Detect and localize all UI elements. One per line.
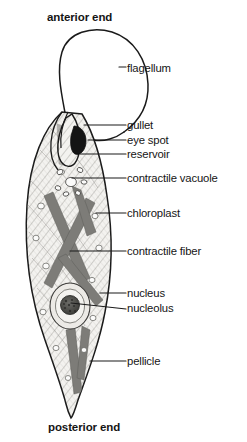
label-contractile-fiber: contractile fiber: [127, 245, 201, 257]
label-gullet: gullet: [127, 119, 153, 131]
label-nucleus: nucleus: [127, 287, 165, 299]
label-pellicle: pellicle: [127, 355, 160, 367]
anterior-end-label: anterior end: [47, 11, 112, 23]
label-flagellum: flagellum: [127, 62, 171, 74]
label-chloroplast: chloroplast: [127, 207, 180, 219]
label-contractile-vacuole: contractile vacuole: [127, 172, 218, 184]
euglena-diagram: [0, 0, 247, 442]
label-nucleolus: nucleolus: [127, 302, 173, 314]
label-reservoir: reservoir: [127, 148, 170, 160]
posterior-end-label: posterior end: [48, 421, 120, 433]
label-eye-spot: eye spot: [127, 134, 169, 146]
nucleus-structure: [50, 283, 90, 329]
